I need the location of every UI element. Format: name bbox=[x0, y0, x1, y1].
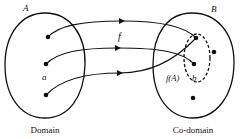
image-set-dashed-oval bbox=[184, 34, 210, 82]
codomain-point-3 bbox=[212, 50, 217, 55]
mapping-arrows bbox=[46, 21, 196, 95]
mapping-arrow-2 bbox=[46, 48, 118, 64]
image-label: f(A) bbox=[166, 73, 179, 83]
domain-label: Domain bbox=[31, 125, 60, 135]
codomain-label: Co-domain bbox=[173, 125, 214, 135]
codomain-set bbox=[153, 13, 234, 118]
set-a-label: A bbox=[22, 3, 29, 13]
function-label: f bbox=[118, 31, 122, 42]
function-mapping-diagram: A B f a f(A) b Domain Co-domain bbox=[0, 0, 240, 139]
codomain-point-4 bbox=[191, 96, 196, 101]
domain-set bbox=[5, 13, 85, 118]
element-a-label: a bbox=[42, 72, 47, 82]
mapping-arrow-1 bbox=[48, 21, 122, 37]
element-b-label: b bbox=[192, 73, 197, 83]
set-b-label: B bbox=[211, 4, 217, 14]
